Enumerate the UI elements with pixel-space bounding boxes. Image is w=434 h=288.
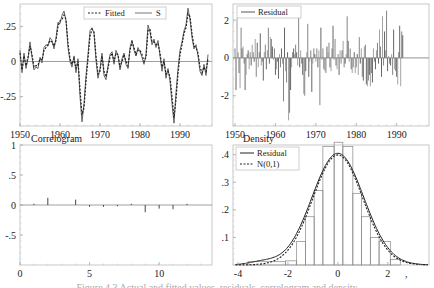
y-tick-label: 2 [224, 15, 229, 26]
legend-label-s: S [156, 8, 161, 18]
y-tick-label: -.25 [0, 91, 16, 102]
x-tick-label: -4 [234, 268, 242, 279]
histogram-bin [297, 242, 306, 265]
y-tick-label: .4 [222, 149, 230, 160]
x-tick-label: 1980 [346, 129, 366, 140]
x-tick-label: 1950 [10, 129, 30, 140]
y-tick-label: 0 [224, 52, 229, 63]
x-tick-label: 2 [385, 268, 390, 279]
y-tick-label: 1 [11, 140, 16, 151]
legend: Residual [237, 6, 301, 18]
normal-curve [236, 155, 428, 265]
panel-correlogram: 05101.50-.5Correlogram [5, 133, 212, 279]
legend: ResidualN(0,1) [236, 147, 299, 170]
panel-title-density: Density [243, 133, 274, 144]
y-tick-label: -2 [221, 90, 229, 101]
x-tick-label: 1970 [90, 129, 110, 140]
histogram-bin [362, 217, 371, 265]
legend-label-fitted: Fitted [105, 8, 126, 18]
y-tick-label: .1 [222, 232, 230, 243]
x-tick-label: 5 [87, 268, 92, 279]
x-tick-label: 0 [335, 268, 340, 279]
x-tick-label: 1990 [170, 129, 190, 140]
histogram-bin [305, 217, 314, 265]
x-tick-fragment: , [405, 268, 408, 279]
legend: FittedS [84, 7, 166, 19]
panel-fitted-vs-actual: 19501960197019801990.250-.25FittedS [0, 4, 212, 140]
x-tick-label: 1970 [306, 129, 326, 140]
y-tick-label: .2 [222, 204, 230, 215]
y-tick-label: -.5 [5, 230, 16, 241]
y-tick-label: .25 [4, 21, 17, 32]
histogram-bin [334, 142, 343, 265]
histogram-bin [370, 237, 379, 265]
plot-frame [20, 4, 212, 126]
figure-canvas: 19501960197019801990.250-.25FittedS 1950… [0, 0, 434, 288]
x-tick-label: 1990 [387, 129, 407, 140]
panel-title-correlogram: Correlogram [31, 133, 82, 144]
y-tick-label: .5 [9, 170, 17, 181]
legend-label-normal: N(0,1) [257, 159, 280, 169]
series-fitted-line [20, 14, 208, 118]
panel-residuals: 1950196019701980199020-2Residual [221, 4, 429, 140]
histogram-bin [314, 191, 323, 265]
y-tick-label: 0 [11, 56, 16, 67]
figure-caption: Figure 4.3 Actual and fitted values, res… [0, 281, 434, 288]
legend-label-residual: Residual [257, 148, 287, 158]
x-tick-label: -2 [284, 268, 292, 279]
histogram-bin [353, 193, 362, 265]
x-tick-label: 10 [154, 268, 164, 279]
legend-label-residual: Residual [258, 7, 288, 17]
y-tick-label: .3 [222, 177, 230, 188]
series-s-line [20, 8, 208, 123]
histogram-bin [285, 261, 296, 265]
x-tick-label: 0 [18, 268, 23, 279]
x-tick-label: 1980 [130, 129, 150, 140]
histogram-bin [323, 146, 334, 265]
panel-density: -4-202.4.3.2.1Density,ResidualN(0,1) [222, 133, 430, 279]
y-tick-label: 0 [11, 200, 16, 211]
